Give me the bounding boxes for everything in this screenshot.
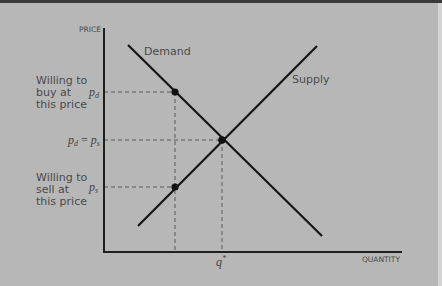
buy-annotation: Willing to buy at this price [36, 74, 88, 111]
pd-label: pd [88, 85, 100, 100]
equilibrium-price-label: pd = ps [67, 133, 100, 148]
equilibrium-point [218, 136, 226, 144]
supply-demand-diagram: PRICE QUANTITY Demand Supply pd pd = ps … [0, 0, 442, 286]
diagram-canvas: PRICE QUANTITY Demand Supply pd pd = ps … [0, 0, 442, 286]
svg-text:this price: this price [36, 195, 87, 208]
guide-lines [104, 92, 222, 252]
supply-label: Supply [292, 73, 330, 86]
sell-annotation: Willing to sell at this price [36, 171, 88, 208]
ps-point [171, 183, 178, 190]
ps-label: ps [88, 180, 98, 195]
q-star-label: q* [216, 254, 226, 269]
supply-curve [138, 46, 317, 226]
pd-point [171, 88, 178, 95]
y-axis-label: PRICE [79, 25, 101, 34]
x-axis-label: QUANTITY [362, 255, 401, 264]
demand-label: Demand [144, 45, 191, 58]
svg-text:this price: this price [36, 98, 87, 111]
